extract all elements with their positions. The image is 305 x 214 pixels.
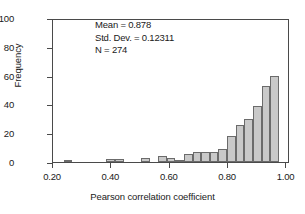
x-tick-mark [52, 163, 53, 168]
histogram-bar [64, 160, 73, 162]
x-tick-label: 0.40 [90, 171, 130, 182]
histogram-bar [201, 152, 210, 162]
x-axis-title: Pearson correlation coefficient [0, 191, 305, 202]
x-tick-label: 0.60 [149, 171, 189, 182]
y-tick-label: 40 [0, 100, 14, 110]
histogram-bar [184, 154, 193, 162]
histogram-bar [167, 158, 176, 162]
y-tick-label: 0 [0, 158, 14, 168]
x-tick-mark [169, 163, 170, 168]
histogram-bar [262, 86, 271, 162]
histogram-bar [175, 160, 184, 162]
x-tick-label: 0.80 [207, 171, 247, 182]
histogram-bar [210, 152, 219, 162]
stats-mean: Mean = 0.878 [95, 19, 174, 32]
stats-stddev: Std. Dev. = 0.12311 [95, 32, 174, 45]
stats-n: N = 274 [95, 44, 174, 57]
y-tick-label: 60 [0, 72, 14, 82]
y-tick-label: 80 [0, 43, 14, 53]
histogram-bar [115, 159, 124, 162]
histogram-bar [253, 106, 262, 162]
histogram-bar [244, 119, 253, 162]
histogram-bar [236, 125, 245, 162]
histogram-bar [193, 152, 202, 162]
x-tick-label: 1.00 [265, 171, 305, 182]
stats-annotation: Mean = 0.878 Std. Dev. = 0.12311 N = 274 [95, 19, 174, 57]
histogram-figure: Frequency 020406080100 0.200.400.600.801… [0, 0, 305, 214]
histogram-bar [158, 156, 167, 162]
y-tick-label: 100 [0, 14, 14, 24]
histogram-bar [218, 149, 227, 162]
x-tick-mark [285, 163, 286, 168]
histogram-bar [270, 76, 279, 162]
histogram-bar [141, 158, 150, 162]
histogram-bar [227, 136, 236, 162]
histogram-bar [106, 159, 115, 162]
x-tick-mark [227, 163, 228, 168]
x-tick-label: 0.20 [32, 171, 72, 182]
x-tick-mark [110, 163, 111, 168]
y-tick-label: 20 [0, 129, 14, 139]
